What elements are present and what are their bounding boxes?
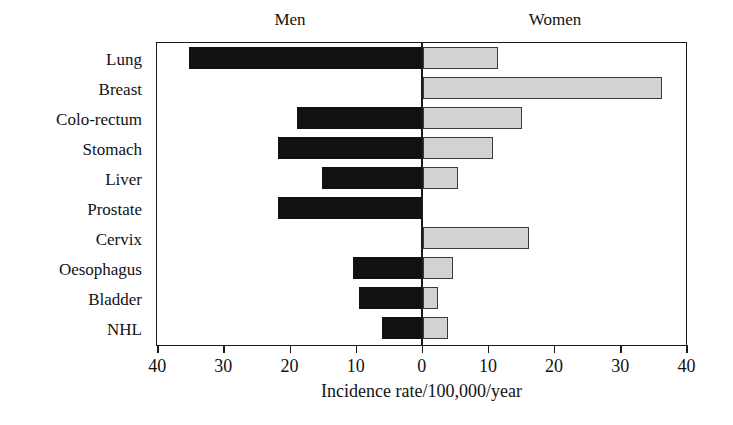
- x-axis-tick-label: 40: [656, 355, 716, 377]
- category-label: Liver: [0, 165, 150, 195]
- y-axis-category-labels: LungBreastColo-rectumStomachLiverProstat…: [0, 45, 150, 345]
- chart-figure: Men Women LungBreastColo-rectumStomachLi…: [0, 0, 733, 425]
- x-axis-tick-label: 30: [193, 355, 253, 377]
- x-axis-tick-label: 0: [392, 355, 452, 377]
- x-axis-tick-label: 30: [590, 355, 650, 377]
- bar-women: [423, 47, 498, 69]
- x-axis-tick: [422, 345, 423, 353]
- group-label-women: Women: [495, 10, 615, 30]
- group-label-men: Men: [230, 10, 350, 30]
- x-axis-tick: [157, 345, 158, 353]
- bar-men: [353, 257, 423, 279]
- category-label: Lung: [0, 45, 150, 75]
- bar-men: [189, 47, 423, 69]
- category-label: Breast: [0, 75, 150, 105]
- bar-women: [423, 317, 448, 339]
- bar-men: [359, 287, 423, 309]
- bar-women: [423, 167, 458, 189]
- x-axis-tick: [488, 345, 489, 353]
- category-label: Oesophagus: [0, 255, 150, 285]
- bar-women: [423, 227, 530, 249]
- x-axis-tick: [686, 345, 687, 353]
- x-axis-title: Incidence rate/100,000/year: [156, 380, 687, 402]
- bar-men: [278, 197, 423, 219]
- x-axis-tick: [223, 345, 224, 353]
- bar-women: [423, 107, 522, 129]
- x-axis-tick: [620, 345, 621, 353]
- bar-women: [423, 287, 438, 309]
- x-axis-tick-label: 20: [524, 355, 584, 377]
- x-axis-tick-label: 10: [458, 355, 518, 377]
- x-axis-tick: [290, 345, 291, 353]
- zero-baseline: [421, 42, 423, 345]
- category-label: Stomach: [0, 135, 150, 165]
- x-axis-tick: [356, 345, 357, 353]
- x-axis-tick-label: 10: [326, 355, 386, 377]
- bar-women: [423, 257, 453, 279]
- category-label: Cervix: [0, 225, 150, 255]
- category-label: NHL: [0, 315, 150, 345]
- bar-men: [278, 137, 423, 159]
- category-label: Bladder: [0, 285, 150, 315]
- bar-men: [297, 107, 423, 129]
- category-label: Prostate: [0, 195, 150, 225]
- bar-men: [322, 167, 423, 189]
- bar-women: [423, 77, 662, 99]
- x-axis-tick-label: 40: [127, 355, 187, 377]
- bar-women: [423, 137, 493, 159]
- x-axis-tick: [554, 345, 555, 353]
- bar-men: [382, 317, 422, 339]
- category-label: Colo-rectum: [0, 105, 150, 135]
- x-axis-tick-label: 20: [260, 355, 320, 377]
